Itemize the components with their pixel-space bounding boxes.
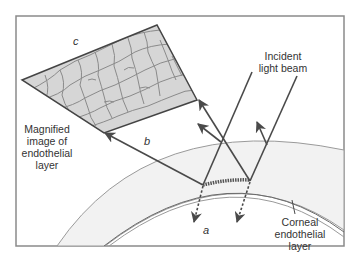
incident-light-beam-label: Incident light beam [250, 50, 316, 74]
magnified-label-line3: endothelial [16, 147, 78, 159]
magnified-label-line4: layer [16, 159, 78, 171]
corneal-endothelial-layer-label: Corneal endothelial layer [264, 216, 336, 252]
magnified-label-line1: Magnified [16, 123, 78, 135]
incident-label-line2: light beam [250, 62, 316, 74]
label-b: b [144, 135, 150, 147]
magnified-image-label: Magnified image of endothelial layer [16, 123, 78, 171]
corneal-label-line3: layer [264, 240, 336, 252]
label-a: a [203, 224, 209, 236]
incident-label-line1: Incident [250, 50, 316, 62]
corneal-label-line1: Corneal [264, 216, 336, 228]
corneal-label-line2: endothelial [264, 228, 336, 240]
magnified-label-line2: image of [16, 135, 78, 147]
label-c: c [73, 35, 79, 47]
